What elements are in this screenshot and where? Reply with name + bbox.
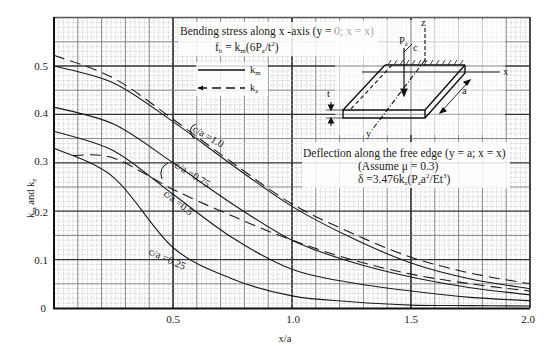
y-tick: 0.3: [34, 155, 48, 167]
deflection-formula: δ =3.476kz(Pza2/Et3): [358, 172, 450, 187]
chart: 0 0.1 0.2 0.3 0.4 0.5 0.5 1.0 1.5 2.0 x/…: [0, 0, 557, 352]
y-axis-label: km and kz: [25, 179, 38, 218]
label-ca-0.5: c/a =0.5: [162, 188, 196, 218]
ca-0.75-arrow-icon: [161, 163, 168, 179]
y-tick: 0: [41, 302, 47, 314]
legend: km kz: [196, 62, 268, 96]
plate-diagram: [326, 20, 505, 135]
x-tick-labels: 0.5 1.0 1.5 2.0: [166, 313, 535, 325]
y-tick: 0.4: [34, 107, 48, 119]
y-tick: 0.1: [34, 254, 48, 266]
diagram-z: z: [421, 17, 426, 28]
y-tick: 0.5: [34, 60, 48, 72]
diagram-a: a: [462, 85, 467, 96]
x-tick: 1.5: [404, 313, 418, 325]
x-axis-label: x/a: [279, 333, 292, 344]
x-tick: 0.5: [166, 313, 180, 325]
diagram-y: y: [366, 128, 372, 139]
diagram-x: x: [503, 66, 509, 77]
x-tick: 2.0: [521, 313, 535, 325]
diagram-c: c: [413, 42, 418, 53]
diagram-t: t: [327, 88, 330, 99]
deflection-title: Deflection along the free edge (y = a; x…: [303, 147, 506, 160]
x-tick: 1.0: [286, 313, 300, 325]
y-tick-labels: 0 0.1 0.2 0.3 0.4 0.5: [34, 60, 48, 314]
formula-fb: fb = km(6Pz/t2): [215, 40, 279, 55]
